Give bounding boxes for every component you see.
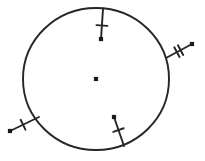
radial-segments-group — [8, 9, 194, 146]
segment-right-endpoint-dot — [190, 42, 194, 46]
segment-top — [96, 9, 107, 41]
segment-bottom-center — [112, 115, 124, 146]
segment-top-shaft — [101, 9, 103, 39]
segment-bottom-left — [8, 117, 39, 133]
segment-top-tick-1 — [96, 25, 107, 26]
diagram-svg — [0, 0, 205, 161]
center-point-group — [94, 77, 98, 81]
segment-top-endpoint-dot — [99, 37, 103, 41]
circle-diagram-canvas — [0, 0, 205, 161]
segment-bottom-left-endpoint-dot — [8, 129, 12, 133]
center-point — [94, 77, 98, 81]
segment-right — [166, 42, 194, 58]
segment-bottom-center-endpoint-dot — [112, 115, 116, 119]
